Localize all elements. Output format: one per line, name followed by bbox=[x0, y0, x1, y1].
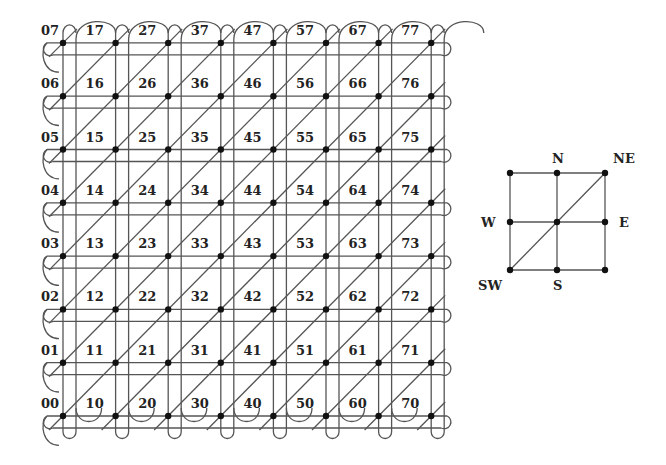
grid-node bbox=[428, 200, 434, 206]
label-south: S bbox=[553, 278, 562, 293]
grid-node bbox=[270, 93, 276, 99]
grid-node-label: 26 bbox=[138, 76, 156, 91]
grid-node bbox=[270, 146, 276, 152]
grid-node bbox=[60, 360, 66, 366]
grid-node-label: 70 bbox=[401, 396, 419, 411]
grid-node bbox=[218, 93, 224, 99]
grid-node bbox=[60, 146, 66, 152]
grid-node-label: 62 bbox=[349, 289, 367, 304]
grid-node-label: 35 bbox=[191, 130, 209, 145]
grid-node bbox=[323, 413, 329, 419]
grid-node-label: 03 bbox=[41, 236, 59, 251]
grid-node-label: 76 bbox=[401, 76, 419, 91]
grid-node-label: 23 bbox=[138, 236, 156, 251]
grid-node-label: 07 bbox=[41, 23, 59, 38]
grid-node-label: 57 bbox=[296, 23, 314, 38]
grid-node bbox=[323, 93, 329, 99]
grid-node bbox=[375, 413, 381, 419]
grid-node bbox=[165, 360, 171, 366]
grid-node-label: 56 bbox=[296, 76, 314, 91]
grid-node-label: 66 bbox=[349, 76, 367, 91]
grid-node bbox=[218, 40, 224, 46]
grid-node bbox=[428, 253, 434, 259]
grid-node bbox=[375, 40, 381, 46]
grid-node bbox=[60, 200, 66, 206]
grid-node-label: 40 bbox=[243, 396, 261, 411]
grid-node bbox=[270, 200, 276, 206]
grid-node-label: 00 bbox=[41, 396, 59, 411]
grid-node bbox=[165, 40, 171, 46]
grid-node bbox=[428, 413, 434, 419]
grid-node-label: 01 bbox=[41, 343, 59, 358]
grid-node-label: 21 bbox=[138, 343, 156, 358]
grid-node-label: 12 bbox=[86, 289, 104, 304]
grid-node-label: 16 bbox=[86, 76, 104, 91]
grid-node bbox=[270, 413, 276, 419]
grid-node bbox=[323, 306, 329, 312]
grid-node-label: 42 bbox=[243, 289, 261, 304]
grid-node-label: 06 bbox=[41, 76, 59, 91]
grid-node-label: 52 bbox=[296, 289, 314, 304]
grid-node bbox=[375, 146, 381, 152]
grid-node-label: 65 bbox=[349, 130, 367, 145]
grid-node-label: 15 bbox=[86, 130, 104, 145]
grid-node-label: 63 bbox=[349, 236, 367, 251]
grid-node bbox=[165, 413, 171, 419]
grid-node-label: 32 bbox=[191, 289, 209, 304]
grid-node-label: 46 bbox=[243, 76, 261, 91]
label-north: N bbox=[552, 151, 564, 166]
grid-node bbox=[165, 146, 171, 152]
grid-node-label: 50 bbox=[296, 396, 314, 411]
grid-node-label: 14 bbox=[86, 183, 104, 198]
grid-node-label: 41 bbox=[243, 343, 261, 358]
grid-node bbox=[165, 253, 171, 259]
grid-node bbox=[218, 253, 224, 259]
grid-node-label: 60 bbox=[349, 396, 367, 411]
label-west: W bbox=[480, 215, 496, 230]
grid-node-label: 11 bbox=[86, 343, 104, 358]
grid-node-label: 34 bbox=[191, 183, 209, 198]
grid-node-label: 22 bbox=[138, 289, 156, 304]
neighborhood-stencil: N NE W E SW S bbox=[478, 151, 635, 293]
grid-node bbox=[165, 306, 171, 312]
grid-node bbox=[375, 93, 381, 99]
label-east: E bbox=[619, 215, 629, 230]
grid-node bbox=[60, 413, 66, 419]
grid-node-label: 51 bbox=[296, 343, 314, 358]
grid-node bbox=[375, 253, 381, 259]
grid-node bbox=[218, 360, 224, 366]
grid-node bbox=[218, 413, 224, 419]
grid-node-label: 71 bbox=[401, 343, 419, 358]
grid-node-label: 10 bbox=[86, 396, 104, 411]
grid-node bbox=[428, 93, 434, 99]
grid-node bbox=[165, 93, 171, 99]
grid-node bbox=[428, 360, 434, 366]
grid-node-label: 55 bbox=[296, 130, 314, 145]
grid-node-label: 33 bbox=[191, 236, 209, 251]
grid-node bbox=[112, 360, 118, 366]
grid-node bbox=[375, 360, 381, 366]
grid-node-label: 25 bbox=[138, 130, 156, 145]
grid-node bbox=[112, 40, 118, 46]
grid-node-label: 72 bbox=[401, 289, 419, 304]
grid-node bbox=[218, 306, 224, 312]
grid-node bbox=[112, 93, 118, 99]
grid-node bbox=[323, 360, 329, 366]
grid-node bbox=[112, 200, 118, 206]
grid-node bbox=[270, 253, 276, 259]
grid-node bbox=[428, 306, 434, 312]
grid-node-label: 02 bbox=[41, 289, 59, 304]
grid-node-label: 20 bbox=[138, 396, 156, 411]
grid-node-label: 36 bbox=[191, 76, 209, 91]
grid-node bbox=[218, 146, 224, 152]
grid-node-label: 27 bbox=[138, 23, 156, 38]
grid-node-label: 67 bbox=[349, 23, 367, 38]
grid-node bbox=[375, 200, 381, 206]
grid-node-label: 24 bbox=[138, 183, 156, 198]
grid-node-label: 13 bbox=[86, 236, 104, 251]
grid-node bbox=[60, 253, 66, 259]
grid-node-label: 53 bbox=[296, 236, 314, 251]
grid-node-label: 37 bbox=[191, 23, 209, 38]
grid-node bbox=[323, 40, 329, 46]
grid-node bbox=[323, 253, 329, 259]
